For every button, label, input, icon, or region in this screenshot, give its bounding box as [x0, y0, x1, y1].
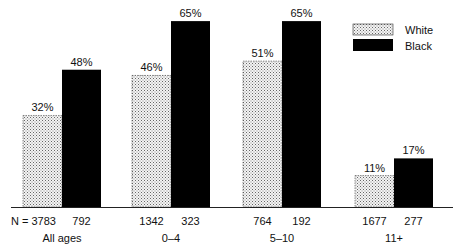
value-label: 51%	[251, 47, 273, 59]
n-label: 764	[253, 215, 271, 227]
value-label: 65%	[290, 7, 312, 19]
n-label: 792	[72, 215, 90, 227]
legend-swatch-black	[353, 39, 393, 51]
bar-black-3	[394, 158, 433, 207]
legend-label-white: White	[405, 24, 433, 36]
category-label: 5–10	[270, 232, 294, 244]
bar-chart: White Black 32%48%792All ages46%134265%3…	[0, 0, 460, 251]
value-label: 48%	[70, 56, 92, 68]
value-label: 32%	[31, 101, 53, 113]
n-label: 323	[181, 215, 199, 227]
legend-swatch-white	[353, 24, 393, 35]
n-prefix-label: N = 3783	[11, 215, 56, 227]
legend-label-black: Black	[405, 40, 432, 52]
bar-white-3	[355, 176, 394, 207]
bar-white-0	[23, 115, 62, 207]
category-label: 11+	[385, 232, 403, 244]
value-label: 65%	[179, 7, 201, 19]
category-label: All ages	[42, 232, 81, 244]
bar-black-2	[282, 21, 321, 207]
value-label: 11%	[364, 162, 385, 174]
bar-black-1	[171, 21, 210, 207]
bar-white-2	[243, 61, 282, 207]
n-label: 1677	[362, 215, 386, 227]
chart-plot-area	[0, 0, 460, 251]
value-label: 17%	[402, 144, 424, 156]
n-label: 1342	[139, 215, 163, 227]
n-label: 277	[404, 215, 422, 227]
bar-black-0	[62, 70, 101, 207]
category-label: 0–4	[162, 232, 180, 244]
bar-white-1	[132, 75, 171, 207]
value-label: 46%	[140, 61, 162, 73]
n-label: 192	[292, 215, 310, 227]
